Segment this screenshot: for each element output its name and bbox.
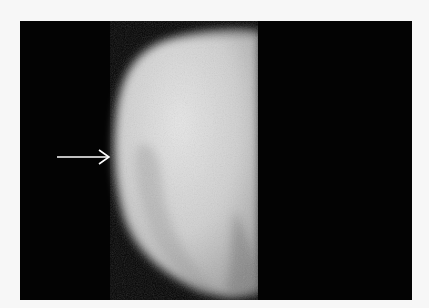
- radiograph-frame: [20, 21, 412, 300]
- arrow-annotation-icon: [57, 147, 113, 167]
